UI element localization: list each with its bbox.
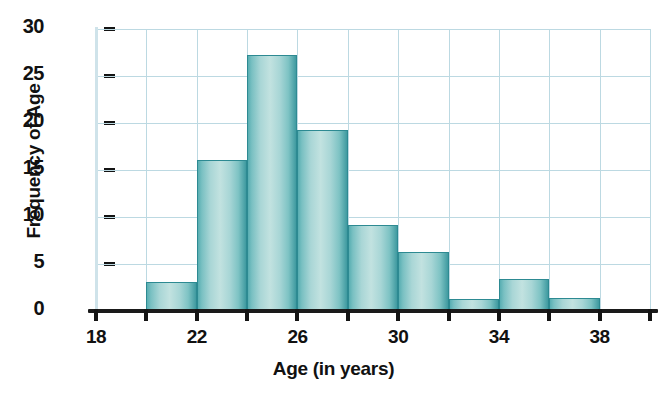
histogram-bar [197,160,247,311]
gridline-horizontal [96,29,650,30]
histogram-bar [499,279,549,311]
gridline-horizontal [96,76,650,77]
histogram-bar [348,225,398,311]
histogram-bar [247,55,297,311]
gridline-horizontal [96,170,650,171]
histogram-chart: Frequency of Age 051015202530 1822263034… [0,0,667,414]
x-axis-tick [346,309,350,321]
x-axis-tick [598,309,602,321]
plot-area [96,29,650,311]
x-axis-tick-label: 22 [187,326,207,348]
y-axis-tick-label: 10 [6,203,44,226]
y-axis-labels: 051015202530 [22,0,80,414]
histogram-bar [398,252,448,311]
x-axis-tick-label: 34 [489,326,509,348]
y-axis-tick-label: 15 [6,156,44,179]
x-axis-tick [94,309,98,321]
histogram-bar [297,130,347,311]
gridline-horizontal [96,217,650,218]
histogram-bar [146,282,196,311]
y-axis-tick-label: 0 [6,297,44,320]
x-axis-tick [547,309,551,321]
gridline-vertical [146,29,147,311]
gridline-vertical [449,29,450,311]
x-axis-tick-label: 18 [86,326,106,348]
y-axis-tick-label: 5 [6,250,44,273]
x-axis-title: Age (in years) [0,358,667,380]
x-axis-tick [195,309,199,321]
x-axis-tick [447,309,451,321]
gridline-horizontal [96,123,650,124]
gridline-vertical [499,29,500,311]
y-axis-line [95,27,98,311]
x-axis-tick [144,309,148,321]
y-axis-tick-label: 20 [6,109,44,132]
x-axis-tick-label: 38 [590,326,610,348]
gridline-vertical [600,29,601,311]
x-axis-tick [648,309,652,321]
y-axis-tick-label: 25 [6,62,44,85]
x-axis-tick [497,309,501,321]
x-axis-tick [295,309,299,321]
x-axis-line [88,309,658,313]
x-axis-tick-label: 30 [388,326,408,348]
gridline-vertical [549,29,550,311]
y-axis-tick-label: 30 [6,15,44,38]
gridline-vertical [650,29,651,311]
x-axis-tick-label: 26 [287,326,307,348]
x-axis-tick [396,309,400,321]
x-axis-tick [245,309,249,321]
